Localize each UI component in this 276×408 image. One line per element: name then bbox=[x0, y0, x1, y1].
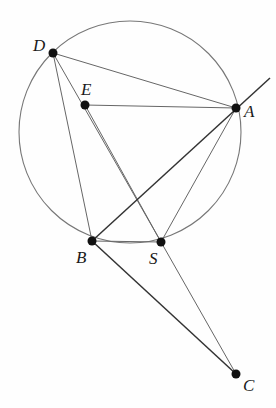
segment-SC bbox=[161, 242, 236, 374]
diagram-figure bbox=[0, 0, 276, 408]
point-S bbox=[157, 238, 166, 247]
point-C bbox=[232, 370, 241, 379]
point-A bbox=[232, 104, 241, 113]
segment-AS bbox=[161, 108, 236, 242]
geometry-diagram: DEABSC bbox=[0, 0, 276, 408]
segment-EA bbox=[85, 105, 236, 108]
label-D: D bbox=[33, 37, 45, 54]
label-A: A bbox=[244, 103, 254, 120]
point-D bbox=[49, 49, 58, 58]
label-B: B bbox=[76, 249, 86, 266]
segment-BC bbox=[92, 241, 236, 374]
point-B bbox=[88, 237, 97, 246]
point-E bbox=[81, 101, 90, 110]
label-C: C bbox=[243, 377, 254, 394]
label-E: E bbox=[81, 81, 91, 98]
segment-ES bbox=[85, 105, 161, 242]
label-S: S bbox=[149, 250, 158, 267]
